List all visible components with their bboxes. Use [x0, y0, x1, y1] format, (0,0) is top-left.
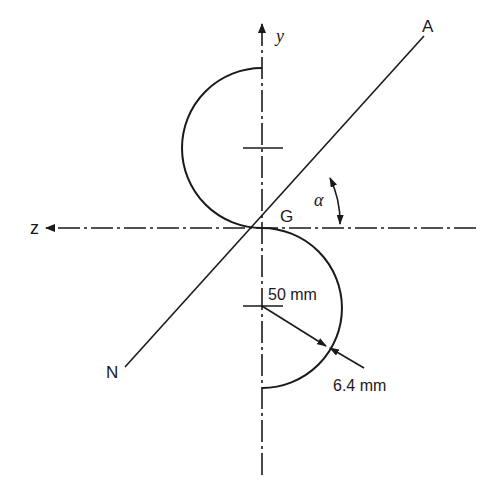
- principal-axis-line: [125, 36, 424, 367]
- z-axis-label: z: [30, 218, 39, 238]
- angle-alpha-label: α: [314, 190, 324, 210]
- section-diagram: y z G A N α 50 mm 6.4 mm: [0, 0, 491, 493]
- angle-arc: [330, 178, 340, 224]
- centroid-label: G: [280, 207, 293, 226]
- radius-label: 50 mm: [268, 286, 317, 303]
- lower-semicircle: [262, 228, 342, 388]
- point-n-label: N: [106, 363, 118, 382]
- y-axis-label: y: [274, 26, 284, 46]
- radius-dimension-arrow: [262, 306, 326, 346]
- point-a-label: A: [422, 17, 434, 36]
- thickness-dimension-arrow: [330, 348, 364, 368]
- thickness-label: 6.4 mm: [333, 377, 386, 394]
